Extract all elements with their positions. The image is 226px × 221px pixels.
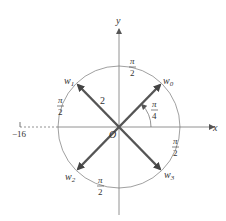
- label-w1: w1: [64, 75, 74, 88]
- vector-w1: [78, 85, 119, 127]
- svg-text:π: π: [152, 99, 157, 109]
- svg-text:2: 2: [173, 148, 178, 158]
- svg-text:w1: w1: [64, 75, 74, 88]
- vector-w3: [119, 127, 160, 169]
- x-axis-label: x: [212, 122, 218, 133]
- svg-text:π: π: [173, 136, 178, 146]
- svg-text:2: 2: [130, 68, 135, 78]
- svg-text:π: π: [98, 175, 103, 185]
- label-w2: w2: [65, 171, 76, 184]
- svg-text:2: 2: [98, 187, 103, 197]
- angle-label-left: π 2: [57, 95, 64, 117]
- magnitude-label: 2: [100, 95, 105, 106]
- origin-label: O: [109, 129, 116, 140]
- roots-diagram: y x O −16 2 w0 w1 w2 w3 π 4 π 2 π 2 π 2 …: [0, 0, 226, 221]
- label-w3: w3: [164, 169, 175, 182]
- svg-text:4: 4: [152, 111, 157, 121]
- tick-label: −16: [12, 129, 27, 139]
- svg-text:π: π: [58, 95, 63, 105]
- svg-text:w2: w2: [65, 171, 76, 184]
- svg-text:w3: w3: [164, 169, 175, 182]
- svg-text:π: π: [130, 56, 135, 66]
- angle-label-pi-over-4: π 4: [151, 99, 158, 121]
- angle-label-bottom: π 2: [97, 175, 104, 197]
- y-axis-label: y: [115, 15, 121, 26]
- svg-text:2: 2: [58, 107, 63, 117]
- initial-angle-arc: [142, 104, 151, 127]
- arc-arrow-top: [145, 72, 160, 83]
- angle-label-top: π 2: [129, 56, 136, 78]
- angle-label-right: π 2: [172, 136, 179, 158]
